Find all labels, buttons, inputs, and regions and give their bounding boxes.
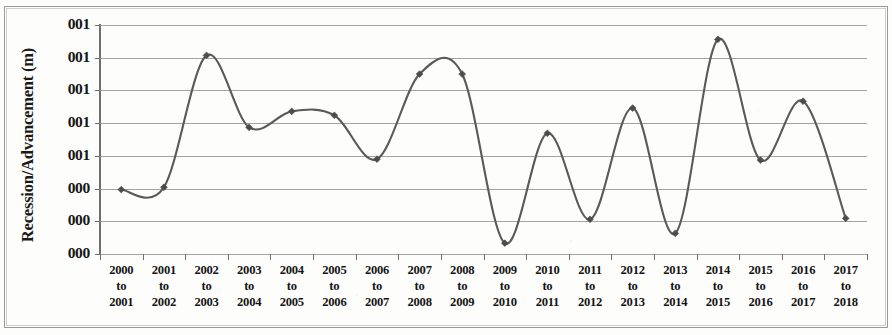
y-axis-label: 000 [44,179,90,197]
x-axis-tick [654,254,655,260]
x-axis-tick [398,254,399,260]
x-axis-label-line: 2017 [823,262,869,278]
x-axis-label-line: 2004 [269,262,315,278]
x-axis-label-line: to [311,278,357,294]
x-axis-label-line: 2007 [354,294,400,310]
x-axis-label: 2006to2007 [354,262,400,310]
y-axis-label: 001 [44,80,90,98]
x-axis-label: 2004to2005 [269,262,315,310]
x-axis-label-line: 2017 [780,294,826,310]
y-axis-title: Recession/Advancement (m) [18,15,38,275]
x-axis-label-line: 2002 [141,294,187,310]
x-axis-label-line: 2006 [354,262,400,278]
x-axis-label-line: to [397,278,443,294]
x-axis-label-line: 2004 [226,294,272,310]
x-axis-label: 2008to2009 [439,262,485,310]
x-axis-label: 2016to2017 [780,262,826,310]
x-axis-label-line: to [737,278,783,294]
y-axis-label: 001 [44,113,90,131]
x-axis-tick [270,254,271,260]
x-axis-label: 2009to2010 [482,262,528,310]
x-axis-tick [569,254,570,260]
x-axis-label-line: 2008 [439,262,485,278]
x-axis-label-line: 2001 [141,262,187,278]
x-axis-label-line: to [184,278,230,294]
x-axis-label: 2007to2008 [397,262,443,310]
x-axis-tick [313,254,314,260]
x-axis-label: 2015to2016 [737,262,783,310]
x-axis-tick [697,254,698,260]
x-axis-label-line: to [439,278,485,294]
x-axis-tick [611,254,612,260]
x-axis-label: 2001to2002 [141,262,187,310]
x-axis-label-line: 2014 [695,262,741,278]
plot-area [100,25,867,254]
x-axis-label: 2003to2004 [226,262,272,310]
x-axis-label-line: 2012 [610,262,656,278]
x-axis-label: 2013to2014 [652,262,698,310]
x-axis-label-line: 2007 [397,262,443,278]
x-axis-label-line: 2013 [652,262,698,278]
x-axis-label-line: 2015 [695,294,741,310]
data-point-marker [118,186,125,193]
x-axis-label-line: 2016 [780,262,826,278]
x-axis-tick [185,254,186,260]
chart-figure: Recession/Advancement (m) 00100100100100… [0,0,892,335]
x-axis-label-line: to [780,278,826,294]
x-axis-label-line: to [98,278,144,294]
y-axis-label: 000 [44,211,90,229]
x-axis-label-line: 2010 [482,294,528,310]
x-axis-label-line: to [354,278,400,294]
x-axis-tick [739,254,740,260]
x-axis-tick [356,254,357,260]
x-axis-label-line: 2010 [524,262,570,278]
y-axis-label: 000 [44,244,90,262]
x-axis-label-line: to [567,278,613,294]
x-axis-label: 2017to2018 [823,262,869,310]
x-axis-label: 2012to2013 [610,262,656,310]
x-axis-label-line: to [141,278,187,294]
x-axis-label-line: 2006 [311,294,357,310]
x-axis-label-line: 2005 [269,294,315,310]
x-axis-tick [228,254,229,260]
x-axis-label: 2010to2011 [524,262,570,310]
x-axis-label-line: to [482,278,528,294]
x-axis-tick [867,254,868,260]
x-axis-tick [824,254,825,260]
series-markers-group [118,36,849,247]
data-series-svg [100,25,867,254]
x-axis-label-line: to [695,278,741,294]
x-axis-label-line: to [269,278,315,294]
x-axis-label-line: 2014 [652,294,698,310]
x-axis-label-line: to [610,278,656,294]
y-axis-label: 001 [44,15,90,33]
x-axis-tick [143,254,144,260]
x-axis-label-line: 2002 [184,262,230,278]
data-point-marker [842,215,849,222]
x-axis-label-line: 2012 [567,294,613,310]
x-axis-label-line: to [652,278,698,294]
x-axis-label-line: 2009 [482,262,528,278]
x-axis-label-line: 2018 [823,294,869,310]
x-axis-label: 2005to2006 [311,262,357,310]
x-axis-label: 2014to2015 [695,262,741,310]
x-axis-label-line: 2016 [737,294,783,310]
x-axis-label-line: 2009 [439,294,485,310]
x-axis-label-line: 2003 [184,294,230,310]
x-axis-label-line: 2003 [226,262,272,278]
x-axis-label-line: 2011 [524,294,570,310]
x-axis-tick [526,254,527,260]
x-axis-label-line: to [823,278,869,294]
x-axis-label: 2011to2012 [567,262,613,310]
x-axis-label-line: 2005 [311,262,357,278]
x-axis-label-line: 2008 [397,294,443,310]
x-axis-label-line: 2000 [98,262,144,278]
x-axis-tick [484,254,485,260]
y-axis-label: 001 [44,48,90,66]
x-axis-tick [100,254,101,260]
x-axis-label: 2002to2003 [184,262,230,310]
x-axis-label-line: to [226,278,272,294]
x-axis-label-line: 2011 [567,262,613,278]
x-axis-tick [441,254,442,260]
x-axis-label-line: 2013 [610,294,656,310]
